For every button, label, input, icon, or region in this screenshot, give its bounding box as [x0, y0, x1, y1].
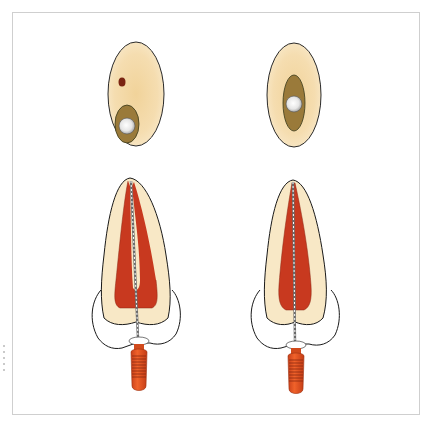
right-cross-section	[267, 43, 321, 147]
file-handle	[288, 348, 304, 394]
separate-canal-dot	[119, 78, 126, 87]
left-cross-section	[108, 42, 164, 146]
file-handle	[131, 344, 147, 391]
endodontic-illustration	[0, 0, 431, 423]
file-cross-section	[119, 118, 135, 134]
right-tooth	[251, 180, 339, 394]
rubber-stopper	[129, 337, 149, 345]
left-tooth	[92, 178, 180, 391]
rubber-stopper	[286, 341, 306, 349]
file-cross-section	[286, 96, 302, 112]
